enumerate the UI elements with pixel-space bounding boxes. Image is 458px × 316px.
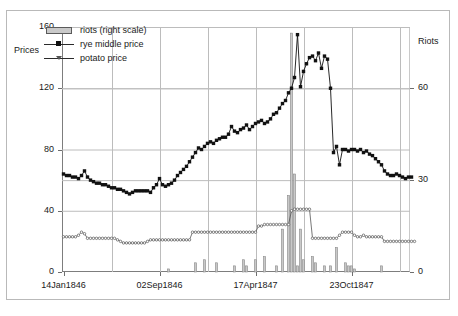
chart-figure: Prices Riots 040801201600306014Jan184602… bbox=[0, 0, 458, 316]
legend-label-riots: riots (right scale) bbox=[80, 25, 147, 35]
y2-axis-tickmark bbox=[410, 180, 414, 181]
riots-bar-swatch-icon bbox=[44, 24, 74, 36]
x-axis-tick-0: 14Jan1846 bbox=[24, 280, 104, 290]
legend-label-rye: rye middle price bbox=[80, 39, 144, 49]
y-axis-tick-0: 0 bbox=[20, 267, 54, 276]
y-axis-tick-80: 80 bbox=[20, 145, 54, 154]
y-axis-tick-120: 120 bbox=[20, 83, 54, 92]
y-axis-tick-40: 40 bbox=[20, 206, 54, 215]
potato-line-marker-icon bbox=[44, 52, 74, 64]
y2-axis-title: Riots bbox=[418, 36, 439, 46]
y-axis-title: Prices bbox=[14, 45, 39, 55]
x-axis-tick-1: 02Sep1846 bbox=[120, 280, 200, 290]
x-axis-tickmark bbox=[160, 272, 161, 276]
y-axis-tickmark bbox=[58, 150, 62, 151]
x-axis-tick-3: 23Oct1847 bbox=[312, 280, 392, 290]
y2-axis-tickmark bbox=[410, 272, 414, 273]
legend-label-potato: potato price bbox=[80, 53, 127, 63]
y2-axis-tick-30: 30 bbox=[418, 175, 452, 184]
legend-item-riots: riots (right scale) bbox=[44, 23, 147, 37]
y-axis-tickmark bbox=[58, 88, 62, 89]
chart-legend: riots (right scale) rye middle price pot… bbox=[44, 23, 147, 65]
x-axis-tickmark bbox=[352, 272, 353, 276]
rye-line-marker-icon bbox=[44, 38, 74, 50]
x-axis-tickmark bbox=[256, 272, 257, 276]
y2-axis-tickmark bbox=[410, 88, 414, 89]
legend-item-potato: potato price bbox=[44, 51, 147, 65]
y2-axis-tick-0: 0 bbox=[418, 267, 452, 276]
legend-item-rye: rye middle price bbox=[44, 37, 147, 51]
y-axis-tickmark bbox=[58, 211, 62, 212]
x-axis-tickmark bbox=[64, 272, 65, 276]
y-axis-tickmark bbox=[58, 272, 62, 273]
x-axis-tick-2: 17Apr1847 bbox=[216, 280, 296, 290]
y2-axis-tick-60: 60 bbox=[418, 83, 452, 92]
